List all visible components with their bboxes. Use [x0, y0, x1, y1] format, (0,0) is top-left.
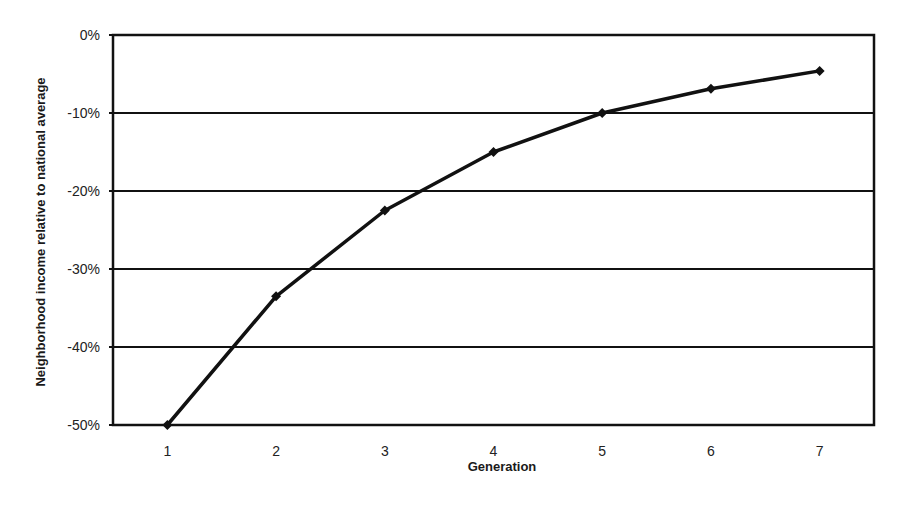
x-tick-label: 7 — [816, 443, 824, 459]
x-tick-label: 2 — [272, 443, 280, 459]
diamond-marker — [706, 84, 716, 94]
y-tick-label: -20% — [67, 183, 100, 199]
x-tick-label: 6 — [707, 443, 715, 459]
x-tick-label: 3 — [381, 443, 389, 459]
x-tick-label: 1 — [163, 443, 171, 459]
line-chart — [0, 0, 905, 507]
data-series — [162, 66, 824, 430]
series-line — [167, 71, 819, 425]
diamond-marker — [815, 66, 825, 76]
gridlines — [109, 35, 874, 425]
y-tick-label: -40% — [67, 339, 100, 355]
x-axis-label: Generation — [468, 459, 537, 474]
x-tick-label: 5 — [598, 443, 606, 459]
y-tick-label: -30% — [67, 261, 100, 277]
y-axis-label: Neighborhood income relative to national… — [33, 77, 48, 386]
y-tick-label: -10% — [67, 105, 100, 121]
plot-area-border — [113, 35, 874, 425]
diamond-marker — [597, 108, 607, 118]
y-tick-label: 0% — [80, 27, 100, 43]
y-tick-label: -50% — [67, 417, 100, 433]
x-tick-label: 4 — [490, 443, 498, 459]
